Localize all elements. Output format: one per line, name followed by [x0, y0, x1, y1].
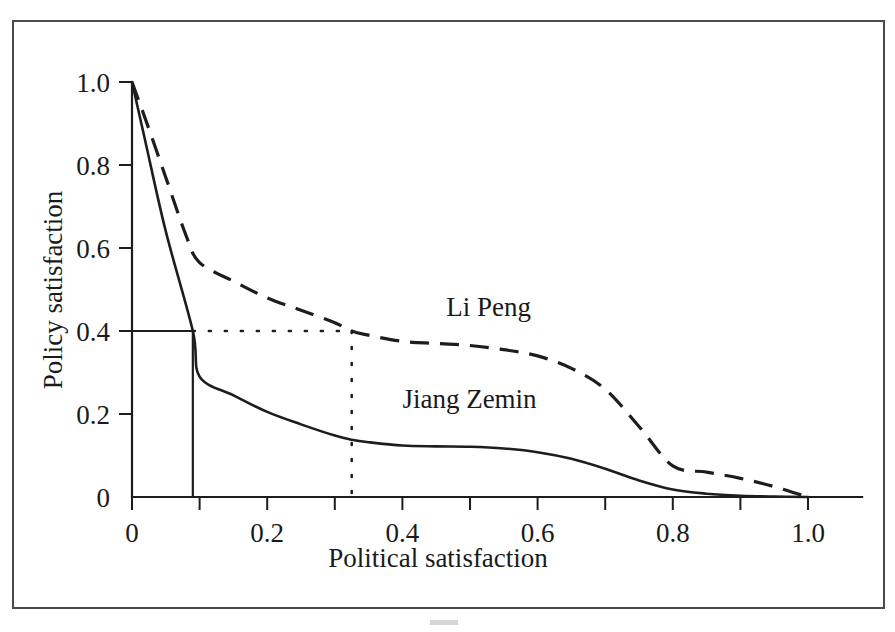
- data-series-group: [132, 82, 808, 497]
- series-label-li-peng: Li Peng: [446, 292, 531, 322]
- y-tick-label: 1.0: [76, 68, 110, 98]
- series-label-jiang-zemin: Jiang Zemin: [402, 384, 537, 414]
- series-curve-jiang-zemin: [132, 82, 808, 497]
- series-curve-li-peng: [132, 82, 808, 497]
- y-axis-title: Policy satisfaction: [38, 190, 68, 389]
- y-tick-label: 0.4: [76, 317, 110, 347]
- x-tick-label: 1.0: [791, 518, 825, 548]
- y-tick-label: 0: [97, 483, 111, 513]
- y-tick-labels-group: 00.20.40.60.81.0: [76, 68, 110, 513]
- x-axis-title: Political satisfaction: [328, 543, 548, 573]
- chart-canvas: 00.20.40.60.81.0 00.20.40.60.81.0 Li Pen…: [0, 0, 895, 632]
- figure-root: 00.20.40.60.81.0 00.20.40.60.81.0 Li Pen…: [0, 0, 895, 632]
- y-tick-label: 0.2: [76, 400, 110, 430]
- y-tick-label: 0.8: [76, 151, 110, 181]
- x-tick-label: 0.2: [250, 518, 284, 548]
- x-tick-label: 0: [125, 518, 139, 548]
- axes-group: [132, 82, 862, 497]
- x-tick-label: 0.8: [656, 518, 690, 548]
- caption-remnant: [430, 620, 458, 625]
- y-tick-label: 0.6: [76, 234, 110, 264]
- guide-lines-group: [132, 331, 352, 497]
